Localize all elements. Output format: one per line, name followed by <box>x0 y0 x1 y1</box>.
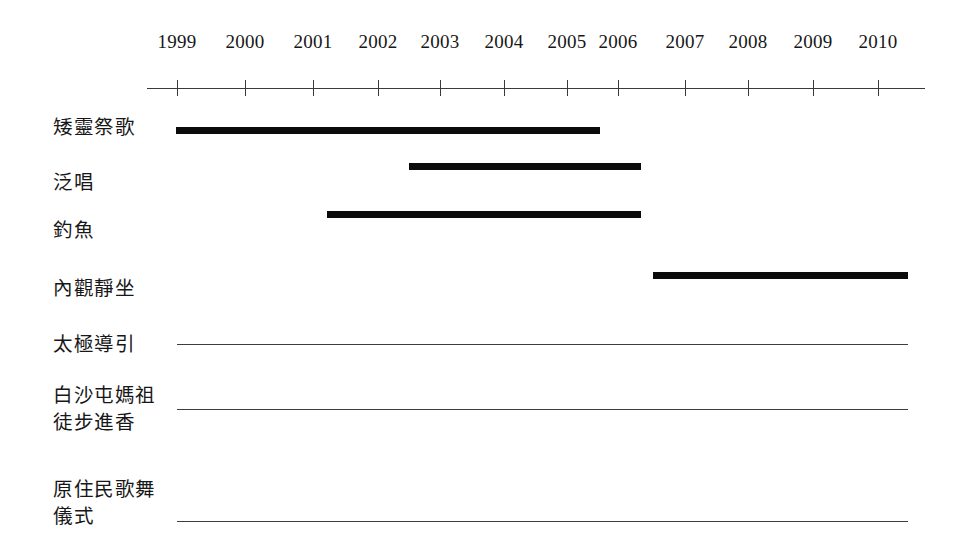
axis-tick-2008 <box>748 80 749 96</box>
axis-tick-label-2004: 2004 <box>485 31 524 53</box>
axis-tick-2010 <box>878 80 879 96</box>
timeline-rule-5 <box>177 344 908 345</box>
axis-tick-2001 <box>313 80 314 96</box>
axis-tick-label-2006: 2006 <box>599 31 638 53</box>
category-label-1: 矮靈祭歌 <box>53 114 135 141</box>
category-label-7: 原住民歌舞 儀式 <box>53 476 156 530</box>
axis-tick-label-2002: 2002 <box>359 31 398 53</box>
axis-tick-label-1999: 1999 <box>158 31 197 53</box>
axis-tick-2000 <box>245 80 246 96</box>
axis-tick-2009 <box>813 80 814 96</box>
axis-tick-2007 <box>685 80 686 96</box>
timeline-bar-4 <box>653 272 908 279</box>
axis-tick-2006 <box>618 80 619 96</box>
timeline-bar-1 <box>176 127 600 134</box>
timeline-bar-3 <box>327 211 641 218</box>
category-label-4: 內觀靜坐 <box>53 275 135 302</box>
axis-tick-label-2008: 2008 <box>729 31 768 53</box>
timeline-rule-7 <box>177 521 908 522</box>
timeline-bar-2 <box>409 163 641 170</box>
axis-tick-2004 <box>504 80 505 96</box>
axis-tick-label-2009: 2009 <box>794 31 833 53</box>
timeline-chart: 1999200020012002200320042005200620072008… <box>0 0 964 555</box>
axis-tick-2002 <box>378 80 379 96</box>
axis-tick-label-2010: 2010 <box>859 31 898 53</box>
axis-tick-1999 <box>177 80 178 96</box>
axis-tick-label-2003: 2003 <box>421 31 460 53</box>
category-label-2: 泛唱 <box>53 169 94 196</box>
axis-tick-2003 <box>440 80 441 96</box>
category-label-5: 太極導引 <box>53 331 135 358</box>
category-label-6: 白沙屯媽祖 徒步進香 <box>53 382 156 436</box>
timeline-rule-6 <box>177 409 908 410</box>
axis-tick-label-2005: 2005 <box>548 31 587 53</box>
axis-tick-2005 <box>567 80 568 96</box>
axis-tick-label-2000: 2000 <box>226 31 265 53</box>
axis-tick-label-2007: 2007 <box>666 31 705 53</box>
axis-tick-label-2001: 2001 <box>294 31 333 53</box>
timeline-axis-line <box>147 88 925 89</box>
category-label-3: 釣魚 <box>53 217 94 244</box>
